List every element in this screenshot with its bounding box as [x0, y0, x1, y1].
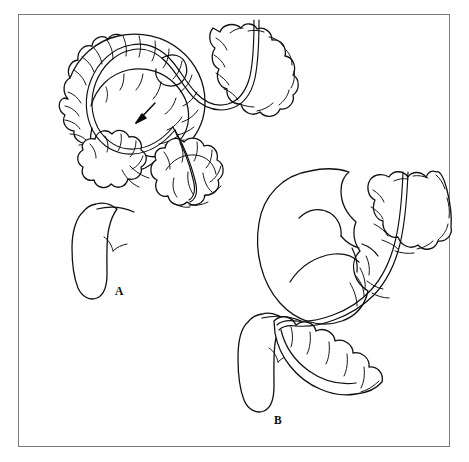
panel-label-b: B: [274, 415, 282, 427]
figure-border-frame: [18, 14, 450, 447]
panel-label-a: A: [115, 286, 124, 298]
figure-root: A B: [0, 0, 469, 462]
